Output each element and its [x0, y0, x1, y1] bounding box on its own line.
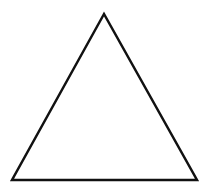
- diagram-canvas: [0, 0, 205, 190]
- background: [0, 0, 205, 190]
